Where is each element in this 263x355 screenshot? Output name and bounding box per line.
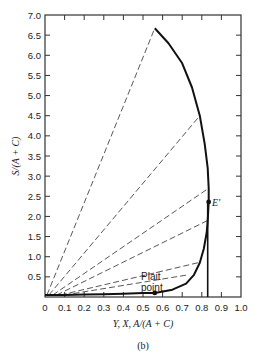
y-tick-label: 1.5 — [28, 231, 41, 242]
y-tick-label: 3.0 — [28, 171, 41, 182]
curve-line — [45, 28, 209, 295]
y-tick-label: 2.0 — [28, 211, 41, 222]
y-tick-label: 5.5 — [28, 70, 41, 81]
annotations — [152, 200, 211, 296]
x-tick-label: 0.3 — [97, 302, 110, 313]
y-tick-label: 3.5 — [28, 151, 41, 162]
x-axis-title: Y, X, A/(A + C) — [113, 318, 174, 330]
x-tick-label: 0.9 — [215, 302, 228, 313]
plot-axes: 00.10.20.30.40.50.60.70.80.91.00.51.01.5… — [28, 10, 248, 314]
x-tick-label: 0.2 — [78, 302, 91, 313]
y-tick-label: 1.0 — [28, 251, 41, 262]
y-tick-label: 0.5 — [28, 271, 41, 282]
plait-point-label-line2: point — [141, 282, 163, 293]
tie-line — [65, 275, 188, 295]
y-tick-label: 5.0 — [28, 90, 41, 101]
x-tick-label: 0.1 — [58, 302, 71, 313]
x-tick-label: 0.8 — [195, 302, 208, 313]
tie-line — [49, 116, 200, 295]
tie-line — [53, 188, 209, 295]
figure-caption: (b) — [137, 340, 149, 352]
point-marker — [206, 200, 211, 205]
x-tick-label: 0.6 — [156, 302, 169, 313]
chart: 00.10.20.30.40.50.60.70.80.91.00.51.01.5… — [0, 0, 263, 355]
x-tick-label: 0 — [42, 302, 47, 313]
y-axis-title: S/(A + C) — [10, 136, 22, 175]
y-tick-label: 4.0 — [28, 130, 41, 141]
curves — [45, 28, 209, 297]
plait-point-label-line1: Plait — [141, 271, 161, 282]
y-tick-label: 7.0 — [28, 10, 41, 21]
tie-line — [61, 263, 198, 295]
x-tick-label: 0.4 — [117, 302, 130, 313]
y-tick-label: 6.5 — [28, 30, 41, 41]
y-tick-label: 6.0 — [28, 50, 41, 61]
y-tick-label: 4.5 — [28, 110, 41, 121]
x-tick-label: 1.0 — [234, 302, 247, 313]
x-tick-label: 0.7 — [176, 302, 189, 313]
x-tick-label: 0.5 — [136, 302, 149, 313]
y-tick-label: 2.5 — [28, 191, 41, 202]
e-prime-label: E' — [211, 197, 221, 208]
